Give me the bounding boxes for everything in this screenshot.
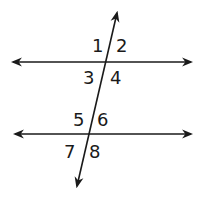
angle-label-7: 7: [64, 141, 75, 162]
diagram-canvas: 1 2 3 4 5 6 7 8: [0, 0, 202, 197]
angle-label-4: 4: [110, 67, 121, 88]
angle-label-5: 5: [73, 109, 84, 130]
angle-label-3: 3: [83, 67, 94, 88]
angle-label-1: 1: [92, 35, 103, 56]
angle-label-2: 2: [116, 35, 127, 56]
angle-label-6: 6: [97, 109, 108, 130]
angle-label-8: 8: [89, 141, 100, 162]
